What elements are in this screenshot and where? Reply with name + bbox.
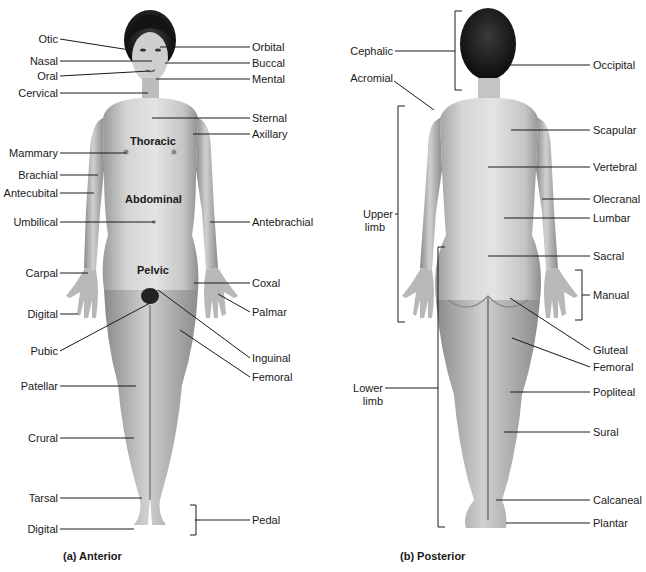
- label-calcaneal: Calcaneal: [593, 494, 642, 506]
- anterior-legs: [104, 290, 198, 525]
- posterior-right-hand: [544, 268, 578, 318]
- caption-anterior: (a) Anterior: [63, 550, 122, 562]
- label-occipital: Occipital: [593, 59, 635, 71]
- label-mental: Mental: [252, 73, 285, 85]
- anterior-right-hand: [204, 268, 238, 318]
- label-brachial: Brachial: [0, 169, 58, 181]
- label-buccal: Buccal: [252, 57, 285, 69]
- caption-posterior: (b) Posterior: [400, 550, 465, 562]
- anterior-right-arm: [196, 118, 218, 270]
- label-scapular: Scapular: [593, 124, 636, 136]
- label-crural: Crural: [0, 432, 58, 444]
- region-abdominal: Abdominal: [125, 193, 182, 205]
- posterior-right-arm: [536, 118, 558, 270]
- label-cervical: Cervical: [0, 87, 58, 99]
- posterior-left-hand: [402, 268, 434, 318]
- label-carpal: Carpal: [0, 267, 58, 279]
- label-palmar: Palmar: [252, 306, 287, 318]
- label-plantar: Plantar: [593, 517, 628, 529]
- anterior-head: [124, 10, 176, 100]
- label-orbital: Orbital: [252, 41, 284, 53]
- posterior-torso: [435, 98, 541, 300]
- label-digital-hand: Digital: [0, 308, 58, 320]
- label-olecranal: Olecranal: [593, 193, 640, 205]
- label-acromial: Acromial: [330, 72, 393, 84]
- label-gluteal: Gluteal: [593, 344, 628, 356]
- label-otic: Otic: [0, 33, 58, 45]
- label-nasal: Nasal: [0, 55, 58, 67]
- label-upper-limb-line2: limb: [340, 221, 385, 233]
- label-mammary: Mammary: [0, 147, 58, 159]
- label-popliteal: Popliteal: [593, 386, 635, 398]
- region-pelvic: Pelvic: [137, 264, 169, 276]
- anterior-left-arm: [84, 118, 104, 270]
- anatomy-illustration: [0, 0, 646, 572]
- posterior-head: [460, 8, 516, 102]
- label-lower-limb-line1: Lower: [340, 382, 383, 394]
- label-pubic: Pubic: [0, 345, 58, 357]
- body-regions-figure: Otic Nasal Oral Cervical Mammary Brachia…: [0, 0, 646, 572]
- label-manual: Manual: [593, 289, 629, 301]
- label-femoral-anterior: Femoral: [252, 371, 292, 383]
- label-sural: Sural: [593, 426, 619, 438]
- label-pedal: Pedal: [252, 514, 280, 526]
- label-sternal: Sternal: [252, 112, 287, 124]
- label-coxal: Coxal: [252, 277, 280, 289]
- label-femoral-posterior: Femoral: [593, 361, 633, 373]
- label-lower-limb-line2: limb: [340, 395, 383, 407]
- anterior-left-hand: [66, 268, 98, 318]
- label-antecubital: Antecubital: [0, 187, 58, 199]
- label-sacral: Sacral: [593, 250, 624, 262]
- label-vertebral: Vertebral: [593, 161, 637, 173]
- label-antebrachial: Antebrachial: [252, 216, 313, 228]
- label-tarsal: Tarsal: [0, 492, 58, 504]
- region-thoracic: Thoracic: [130, 135, 176, 147]
- label-digital-foot: Digital: [0, 523, 58, 535]
- label-cephalic: Cephalic: [330, 45, 393, 57]
- label-oral: Oral: [0, 70, 58, 82]
- label-patellar: Patellar: [0, 380, 58, 392]
- label-axillary: Axillary: [252, 128, 287, 140]
- label-upper-limb-line1: Upper: [340, 208, 393, 220]
- label-umbilical: Umbilical: [0, 216, 58, 228]
- label-inguinal: Inguinal: [252, 352, 291, 364]
- label-lumbar: Lumbar: [593, 212, 630, 224]
